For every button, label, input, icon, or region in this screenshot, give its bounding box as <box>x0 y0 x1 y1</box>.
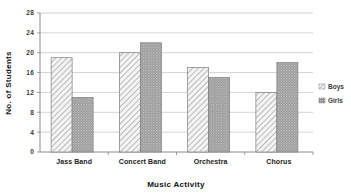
y-tick-label: 24 <box>26 29 34 36</box>
legend-label-boys: Boys <box>328 83 344 91</box>
chart-canvas: 0481216202428 Jass BandConcert BandOrche… <box>0 0 351 194</box>
bar-boys-orchestra <box>188 68 209 152</box>
y-tick-label: 8 <box>30 109 34 116</box>
legend-label-girls: Girls <box>328 97 343 104</box>
y-tick-label: 28 <box>26 9 34 16</box>
y-tick-label: 0 <box>30 148 34 155</box>
bar-girls-chorus <box>277 63 298 152</box>
bar-girls-concert-band <box>140 43 161 152</box>
bar-boys-jass-band <box>51 58 72 152</box>
x-axis-title: Music Activity <box>147 180 205 189</box>
y-axis-title: No. of Students <box>4 51 13 115</box>
y-tick-label: 16 <box>26 69 34 76</box>
bar-boys-chorus <box>256 92 277 152</box>
category-label: Chorus <box>266 158 291 165</box>
bar-chart: 0481216202428 Jass BandConcert BandOrche… <box>0 0 351 194</box>
y-tick-label: 4 <box>30 129 34 136</box>
y-tick-label: 12 <box>26 89 34 96</box>
bar-girls-jass-band <box>72 97 93 152</box>
bar-boys-concert-band <box>119 53 140 152</box>
bar-girls-orchestra <box>209 78 230 152</box>
category-label: Concert Band <box>119 158 166 165</box>
y-tick-label: 20 <box>26 49 34 56</box>
category-label: Jass Band <box>56 158 92 165</box>
category-label: Orchestra <box>194 158 228 165</box>
legend-swatch-girls <box>319 98 325 103</box>
legend-swatch-boys <box>319 84 325 89</box>
